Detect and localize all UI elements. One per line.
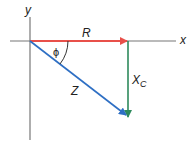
phi-label: ϕ [53,47,59,58]
x-axis-label: x [180,34,186,46]
xc-label-main: X [132,73,140,87]
xc-label-sub: C [140,79,147,89]
z-label: Z [71,85,78,97]
xc-label: XC [132,74,147,89]
r-label: R [82,27,91,39]
vector-z [30,41,126,115]
phasor-diagram [0,0,195,147]
angle-arc [60,41,68,64]
y-axis-label: y [25,4,31,16]
